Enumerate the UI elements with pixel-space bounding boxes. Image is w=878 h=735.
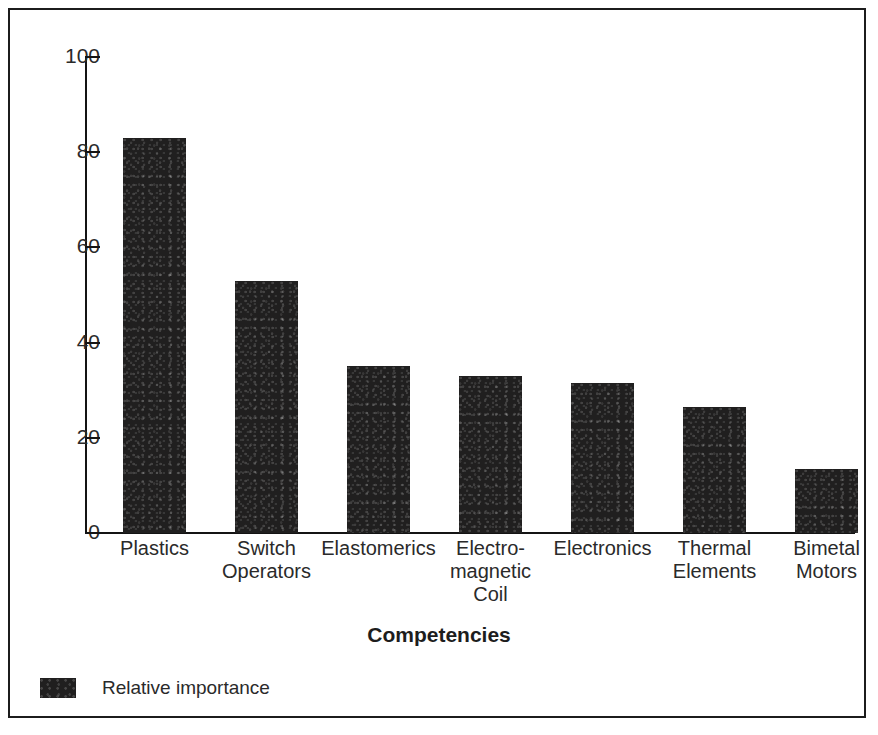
bar-electro-magnetic-coil xyxy=(459,376,522,533)
x-axis-title: Competencies xyxy=(10,623,868,647)
x-label-line: Coil xyxy=(421,583,561,606)
chart-frame: 100806040200 PlasticsSwitchOperatorsElas… xyxy=(8,8,866,718)
legend-label-relative-importance: Relative importance xyxy=(102,677,270,699)
bar-elastomerics xyxy=(347,366,410,533)
bar-bimetal-motors xyxy=(795,469,858,533)
x-label-bimetal-motors: BimetalMotors xyxy=(757,537,878,583)
bar-thermal-elements xyxy=(683,407,746,533)
x-label-line: Operators xyxy=(197,560,337,583)
plot-area: 100806040200 PlasticsSwitchOperatorsElas… xyxy=(10,10,868,720)
bar-electronics xyxy=(571,383,634,533)
bar-switch-operators xyxy=(235,281,298,533)
x-label-line: Motors xyxy=(757,560,878,583)
bar-plastics xyxy=(123,138,186,533)
x-label-line: magnetic xyxy=(421,560,561,583)
x-label-line: Bimetal xyxy=(757,537,878,560)
legend-swatch-relative-importance xyxy=(40,678,76,698)
cut-off-title-sliver xyxy=(0,0,878,7)
legend: Relative importance xyxy=(40,677,270,699)
bars-layer xyxy=(10,10,868,720)
